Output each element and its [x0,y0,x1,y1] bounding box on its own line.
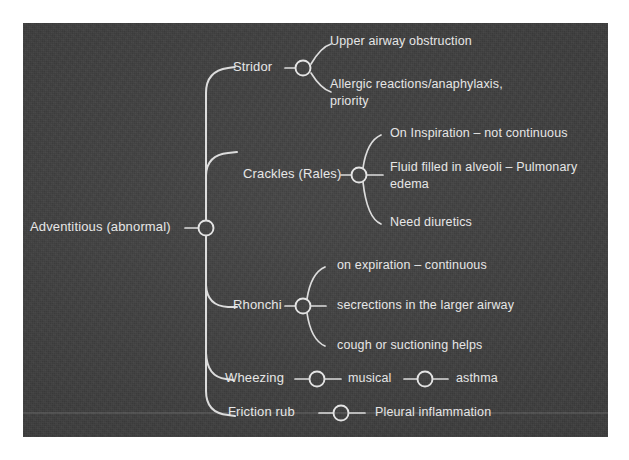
leaf-fluid-filled-line2: edema [390,177,429,191]
crackles-hub-icon[interactable] [352,168,367,183]
leaf-allergic-reactions-line2: priority [330,94,369,108]
root-hub-icon[interactable] [199,221,214,236]
spine-lower [206,236,235,416]
leaf-on-inspiration: On Inspiration – not continuous [390,126,568,140]
branch-label-stridor: Stridor [233,59,273,74]
branch-label-crackles: Crackles (Rales) [243,166,341,181]
wheezing-hub-icon[interactable] [310,372,325,387]
leaf-fluid-filled-line1: Fluid filled in alveoli – Pulmonary [390,160,578,174]
root-node[interactable]: Adventitious (abnormal) [30,219,214,235]
mind-map-canvas: Adventitious (abnormal) Stridor [23,23,608,437]
stridor-connector-1 [311,44,331,64]
stridor-hub-icon[interactable] [296,61,311,76]
main-spine [206,67,237,416]
branch-friction-rub[interactable]: Friction rub Pleural inflammation [228,404,491,420]
crackles-connector-1 [363,135,381,168]
leaf-allergic-reactions-line1: Allergic reactions/anaphylaxis, [330,77,503,91]
spine-tick-crackles [206,152,237,175]
leaf-upper-airway-obstruction: Upper airway obstruction [330,34,472,48]
branch-label-friction-rub: Friction rub [228,404,295,419]
leaf-cough-or-suctioning: cough or suctioning helps [337,338,483,352]
chain-label-asthma: asthma [456,371,498,385]
rhonchi-connector-1 [307,267,325,299]
branch-crackles[interactable]: Crackles (Rales) On Inspiration – not co… [243,126,578,229]
branch-stridor[interactable]: Stridor Upper airway obstruction Allergi… [233,34,503,108]
diagram-panel: Adventitious (abnormal) Stridor [23,23,608,437]
leaf-need-diuretics: Need diuretics [390,215,472,229]
root-label: Adventitious (abnormal) [30,219,171,234]
branch-wheezing[interactable]: Wheezing musical asthma [225,370,498,386]
page-root: Adventitious (abnormal) Stridor [0,0,629,460]
rhonchi-connector-3 [307,313,325,346]
chain-label-musical: musical [348,371,391,385]
leaf-secretions-larger-airway: secrections in the larger airway [337,298,515,312]
branch-label-rhonchi: Rhonchi [233,297,282,312]
stridor-connector-2 [311,73,331,92]
branch-rhonchi[interactable]: Rhonchi on expiration – continuous secre… [233,258,515,352]
rhonchi-hub-icon[interactable] [296,299,311,314]
crackles-connector-3 [363,182,381,224]
leaf-on-expiration: on expiration – continuous [337,258,487,272]
musical-hub-icon[interactable] [418,372,433,387]
branch-label-wheezing: Wheezing [225,370,284,385]
spine-upper [206,67,235,220]
chain-label-pleural-inflammation: Pleural inflammation [375,405,491,419]
